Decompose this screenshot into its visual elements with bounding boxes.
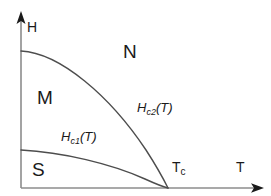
hc1-curve-label: Hc1(T) xyxy=(61,130,97,143)
phase-diagram-figure: H T Tc N M S Hc2(T) Hc1(T) xyxy=(0,0,271,196)
t-axis-group xyxy=(21,183,264,193)
tc-base: T xyxy=(172,159,181,175)
region-label-mixed: M xyxy=(37,88,53,107)
hc1-subscript: c1 xyxy=(70,136,80,146)
region-label-normal: N xyxy=(123,42,137,61)
h-axis-group xyxy=(17,11,26,188)
h-axis-label: H xyxy=(27,20,37,34)
t-axis-label: T xyxy=(236,160,245,174)
hc2-subscript: c2 xyxy=(146,107,156,117)
hc1-argument: (T) xyxy=(80,129,97,144)
hc2-curve-label: Hc2(T) xyxy=(137,101,173,114)
hc2-base: H xyxy=(137,100,146,115)
hc2-argument: (T) xyxy=(156,100,173,115)
tc-subscript: c xyxy=(181,166,186,177)
tc-tick-label: Tc xyxy=(172,160,186,174)
hc1-base: H xyxy=(61,129,70,144)
region-label-meissner: S xyxy=(32,160,45,179)
